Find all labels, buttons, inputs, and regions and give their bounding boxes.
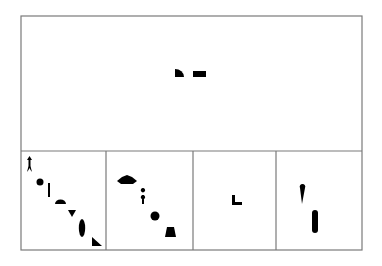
circle-shape: [151, 212, 160, 221]
top-panel: [175, 69, 206, 77]
teardrop-shape: [300, 184, 306, 204]
vertical-bar-shape: [48, 183, 50, 197]
option-panel-1: [27, 156, 102, 246]
right-triangle-shape: [92, 237, 102, 246]
option-panel-2: [117, 175, 176, 237]
trapezoid-shape: [165, 227, 176, 237]
quarter-circle-shape: [175, 69, 184, 77]
pill-shape: [312, 210, 318, 233]
semicircle-shape: [55, 200, 66, 205]
house-pentagon-shape: [117, 175, 137, 184]
option-panel-3: [232, 195, 242, 205]
down-triangle-shape: [68, 210, 76, 217]
ellipse-shape: [79, 219, 85, 237]
shapes-layer: [27, 69, 318, 246]
arrow-shape: [27, 156, 32, 172]
dot-shape: [37, 179, 44, 186]
pawn-shape: [141, 188, 145, 204]
puzzle-svg: [0, 0, 382, 266]
option-panel-4: [300, 184, 318, 233]
l-shape: [232, 195, 242, 205]
rectangle-shape: [193, 71, 206, 77]
puzzle-figure: [0, 0, 382, 266]
